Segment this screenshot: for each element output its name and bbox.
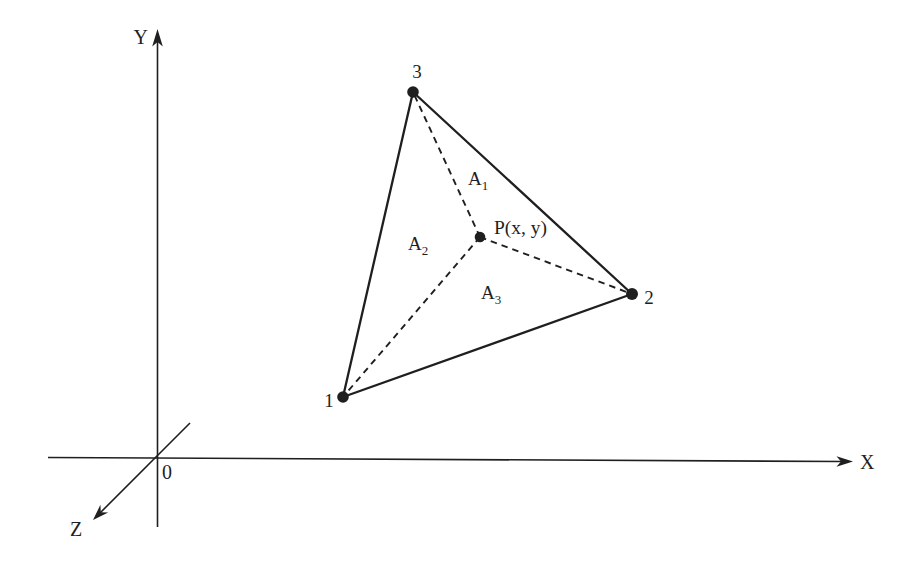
vertex-2-label: 2 xyxy=(644,287,654,308)
triangle-edge-1-3 xyxy=(343,92,413,397)
area-a3-subscript: 3 xyxy=(495,292,502,307)
vertex-1-label: 1 xyxy=(324,390,334,411)
triangle-edge-3-2 xyxy=(413,92,632,294)
origin-label: 0 xyxy=(162,461,172,483)
z-axis-label: Z xyxy=(70,518,82,540)
area-a1-subscript: 1 xyxy=(482,178,489,193)
vertex-3-label: 3 xyxy=(412,61,422,82)
area-a1-base: A xyxy=(468,168,482,189)
vertex-2-dot xyxy=(626,288,638,300)
vertex-1-dot xyxy=(337,391,349,403)
area-a3-label: A3 xyxy=(481,282,501,307)
vertex-3-dot xyxy=(407,86,419,98)
figure-canvas: Y X Z 0 3 2 1 P(x, y) A1 A2 A3 xyxy=(0,0,912,566)
y-axis-label: Y xyxy=(134,26,148,48)
dashed-line-p-3 xyxy=(413,92,480,237)
z-axis-line xyxy=(98,423,190,515)
dashed-line-p-2 xyxy=(480,237,632,294)
area-a3-base: A xyxy=(481,282,495,303)
area-a2-base: A xyxy=(408,233,422,254)
area-a1-label: A1 xyxy=(468,168,488,193)
area-a2-label: A2 xyxy=(408,233,428,258)
diagram-svg: Y X Z 0 3 2 1 P(x, y) A1 A2 A3 xyxy=(0,0,912,566)
point-p-label: P(x, y) xyxy=(494,217,547,239)
point-p-dot xyxy=(475,232,486,243)
x-axis-label: X xyxy=(860,451,875,473)
area-a2-subscript: 2 xyxy=(422,243,429,258)
